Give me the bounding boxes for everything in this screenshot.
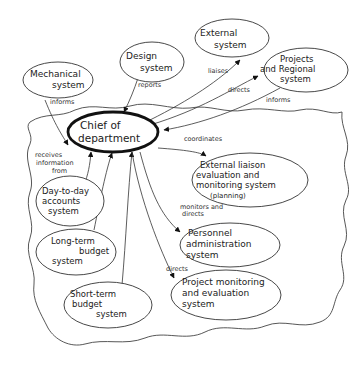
svg-text:External liaison: External liaison	[200, 160, 265, 170]
node-day-to-day: Day-to-day accounts system	[36, 176, 104, 226]
svg-text:budget: budget	[79, 246, 110, 256]
svg-text:system: system	[52, 80, 85, 90]
svg-text:monitoring system: monitoring system	[196, 180, 276, 190]
svg-text:department: department	[78, 132, 140, 144]
svg-text:and Regional: and Regional	[260, 64, 315, 74]
svg-text:Personnel: Personnel	[188, 228, 232, 238]
svg-text:(planning): (planning)	[210, 192, 246, 200]
organization-diagram: informs reports liaises directs informs …	[0, 0, 364, 389]
svg-text:system: system	[214, 40, 247, 50]
node-long-term: Long-term budget system	[36, 229, 116, 275]
edge-coordinates	[158, 148, 206, 156]
node-external: External system	[195, 19, 269, 57]
svg-text:administration: administration	[186, 239, 251, 249]
label-coordinates: coordinates	[184, 135, 223, 143]
label-receives-3: from	[52, 167, 67, 175]
svg-text:Design: Design	[126, 51, 157, 61]
node-external-liaison: External liaison evaluation and monitori…	[192, 153, 308, 207]
svg-text:system: system	[140, 63, 173, 73]
edge-directs-projects	[150, 76, 258, 125]
svg-text:and evaluation: and evaluation	[182, 288, 249, 298]
node-projects-regional: Projects and Regional system	[260, 48, 348, 92]
svg-text:Short-term: Short-term	[70, 289, 116, 299]
svg-text:Chief of: Chief of	[80, 119, 121, 131]
edge-monitors-directs	[140, 152, 180, 232]
svg-text:Projects: Projects	[280, 54, 314, 64]
svg-text:system: system	[48, 206, 79, 216]
edge-directs-project-monitoring	[132, 152, 174, 278]
edge-mechanical-informs	[45, 100, 68, 145]
label-informs-projects: informs	[266, 96, 291, 104]
svg-text:system: system	[182, 299, 215, 309]
label-receives-2: information	[36, 159, 74, 167]
svg-text:Project monitoring: Project monitoring	[182, 277, 265, 287]
svg-text:system: system	[186, 250, 219, 260]
svg-text:system: system	[280, 74, 311, 84]
edge-design-reports	[124, 78, 138, 112]
label-receives-1: receives	[35, 151, 63, 159]
label-monitors-2: directs	[182, 210, 205, 218]
node-mechanical: Mechanical system	[23, 62, 93, 98]
svg-text:Day-to-day: Day-to-day	[42, 186, 89, 196]
svg-text:accounts: accounts	[42, 196, 81, 206]
svg-text:evaluation and: evaluation and	[196, 170, 259, 180]
node-personnel: Personnel administration system	[180, 223, 280, 267]
svg-text:External: External	[200, 28, 237, 38]
label-directs: directs	[228, 86, 251, 94]
svg-text:system: system	[96, 309, 127, 319]
svg-text:budget: budget	[72, 299, 103, 309]
svg-text:system: system	[52, 256, 83, 266]
svg-text:Mechanical: Mechanical	[30, 69, 81, 79]
label-directs-project: directs	[166, 265, 189, 273]
label-informs-mechanical: informs	[50, 98, 75, 106]
node-short-term: Short-term budget system	[64, 282, 152, 328]
edge-short-term	[122, 152, 132, 285]
label-liaises: liaises	[208, 67, 229, 75]
node-project-monitoring: Project monitoring and evaluation system	[171, 270, 281, 320]
svg-text:Long-term: Long-term	[51, 236, 95, 246]
node-design: Design system	[120, 42, 184, 82]
node-chief-of-department: Chief of department	[68, 112, 158, 152]
